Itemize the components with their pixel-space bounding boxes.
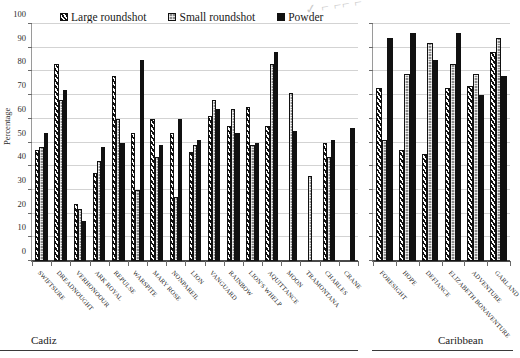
bar-group — [185, 24, 204, 261]
bar-group — [339, 24, 358, 261]
bar — [501, 76, 507, 261]
y-axis-tick-label: 0 — [22, 246, 26, 256]
y-axis-tick-label: 30 — [18, 175, 27, 185]
bar-group — [243, 24, 262, 261]
legend-label: Powder — [288, 11, 323, 23]
bar — [350, 128, 354, 261]
plot-area-cadiz: 0102030405060708090100 SWIFTSUREDREADNOU… — [31, 24, 358, 262]
bar-group — [281, 24, 300, 261]
legend-item-small-roundshot: Small roundshot — [168, 11, 255, 23]
bar-group — [147, 24, 166, 261]
bar — [387, 38, 393, 261]
bar — [82, 221, 86, 261]
bar — [293, 131, 297, 261]
x-axis-tick — [358, 261, 359, 266]
y-axis-tick-label: 80 — [18, 56, 27, 66]
bar-group — [51, 24, 70, 261]
bar-group — [262, 24, 281, 261]
legend-item-large-roundshot: Large roundshot — [60, 11, 146, 23]
bottom-rule-right — [372, 350, 513, 351]
bar-group — [128, 24, 147, 261]
bar-group — [90, 24, 109, 261]
bottom-rule-left — [0, 350, 358, 351]
bar-group — [224, 24, 243, 261]
bar-group — [441, 24, 464, 261]
y-axis-tick-label: 40 — [18, 151, 27, 161]
bar-group — [166, 24, 185, 261]
bar — [235, 133, 239, 261]
panel-cadiz: 0102030405060708090100 SWIFTSUREDREADNOU… — [31, 24, 358, 262]
y-axis-title: Percentage — [2, 108, 12, 145]
x-axis-labels: SWIFTSUREDREADNOUGHTVERHONOOURARK ROYALR… — [32, 261, 358, 351]
bar — [331, 140, 335, 261]
x-axis-category-label: TRAMONTANA — [305, 269, 342, 309]
bar — [274, 52, 278, 261]
bar-group — [70, 24, 89, 261]
x-axis-category-label: LION — [190, 269, 206, 286]
bar-group — [205, 24, 224, 261]
bar — [120, 143, 124, 262]
x-axis-category-label: HOPE — [402, 269, 419, 287]
legend-item-powder: Powder — [277, 11, 323, 23]
y-axis-tick-label: 90 — [18, 33, 27, 43]
bar — [410, 33, 416, 261]
x-axis-category-label: MOON — [286, 269, 305, 289]
bar-group — [487, 24, 510, 261]
bar — [178, 119, 182, 261]
legend-swatch-icon — [168, 13, 176, 21]
panel-caribbean: FORESIGHTHOPEDEFIANCEELIZABETH BONAVENTU… — [372, 24, 510, 262]
bar — [140, 60, 144, 261]
bar-group — [373, 24, 396, 261]
panel-caption-cadiz: Cadiz — [31, 334, 57, 346]
legend-swatch-icon — [277, 13, 285, 21]
bar — [255, 143, 259, 262]
bar-group — [32, 24, 51, 261]
plot-area-caribbean: FORESIGHTHOPEDEFIANCEELIZABETH BONAVENTU… — [372, 24, 510, 262]
legend-label: Small roundshot — [179, 11, 255, 23]
bar-group — [300, 24, 319, 261]
bar-groups — [32, 24, 358, 261]
y-axis-tick-label: 60 — [18, 104, 27, 114]
y-axis-tick-label: 70 — [18, 80, 27, 90]
bar — [63, 90, 67, 261]
y-axis-tick-label: 100 — [13, 9, 26, 19]
bar-group — [109, 24, 128, 261]
bar-group — [419, 24, 442, 261]
bar-group — [320, 24, 339, 261]
bar — [216, 109, 220, 261]
legend-swatch-icon — [60, 13, 68, 21]
bar — [159, 145, 163, 261]
y-axis-tick-label: 20 — [18, 199, 27, 209]
panel-caption-caribbean: Caribbean — [438, 334, 483, 346]
x-axis-tick — [510, 261, 511, 266]
bar — [433, 60, 439, 261]
y-axis-tick-label: 50 — [18, 128, 27, 138]
x-axis-category-label: VERHONOOUR — [75, 269, 111, 308]
bar-group — [464, 24, 487, 261]
bar-group — [396, 24, 419, 261]
legend-label: Large roundshot — [71, 11, 146, 23]
chart-legend: Large roundshot Small roundshot Powder — [60, 11, 323, 23]
y-axis-tick-label: 10 — [18, 222, 27, 232]
bar — [101, 147, 105, 261]
bar-groups — [373, 24, 510, 261]
bar — [308, 176, 312, 261]
bar — [456, 33, 462, 261]
bar — [44, 133, 48, 261]
bar — [197, 140, 201, 261]
bar — [479, 95, 485, 261]
